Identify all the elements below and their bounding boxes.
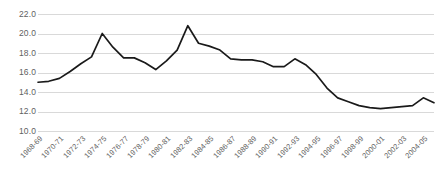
y-axis-tick-label: 20.0 (2, 29, 36, 38)
y-axis-tick-label: 12.0 (2, 107, 36, 116)
x-axis-tick-label: 1984-85 (190, 134, 216, 160)
x-axis-tick-label: 1978-79 (125, 134, 151, 160)
x-axis: 1968-691970-711972-731974-751976-771978-… (38, 131, 434, 178)
series-polyline (38, 26, 434, 109)
x-axis-tick-label: 2002-03 (382, 134, 408, 160)
x-axis-tick-label: 1970-71 (40, 134, 66, 160)
y-axis-tick-label: 10.0 (2, 127, 36, 136)
series-line (38, 14, 434, 131)
x-axis-tick-label: 2000-01 (361, 134, 387, 160)
x-axis-tick-label: 1992-93 (275, 134, 301, 160)
line-chart: 22.020.018.016.014.012.010.0 1968-691970… (0, 0, 437, 178)
y-axis-tick-label: 22.0 (2, 10, 36, 19)
plot-area (38, 14, 434, 131)
x-axis-tick-label: 1998-99 (339, 134, 365, 160)
x-axis-tick-label: 1990-91 (254, 134, 280, 160)
x-axis-tick-label: 1976-77 (104, 134, 130, 160)
x-axis-tick-label: 1972-73 (61, 134, 87, 160)
chart-screenshot: 22.020.018.016.014.012.010.0 1968-691970… (0, 0, 437, 178)
x-axis-tick-label: 1982-83 (168, 134, 194, 160)
x-axis-tick-label: 1996-97 (318, 134, 344, 160)
y-axis-tick-label: 14.0 (2, 88, 36, 97)
x-axis-tick-label: 1980-81 (147, 134, 173, 160)
y-axis-tick-label: 16.0 (2, 68, 36, 77)
x-axis-tick-label: 1994-95 (297, 134, 323, 160)
y-axis-tick-label: 18.0 (2, 49, 36, 58)
x-axis-tick-label: 1988-89 (232, 134, 258, 160)
x-axis-tick-label: 1974-75 (82, 134, 108, 160)
x-axis-tick-label: 1986-87 (211, 134, 237, 160)
x-axis-tick-label: 2004-05 (404, 134, 430, 160)
